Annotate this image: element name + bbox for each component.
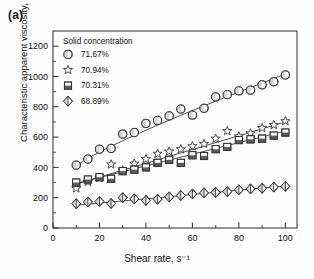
data-point xyxy=(258,183,267,193)
x-tick-label: 20 xyxy=(94,233,104,243)
data-point xyxy=(246,86,254,94)
data-point xyxy=(223,91,231,99)
data-point xyxy=(270,132,277,139)
chart-plot-area xyxy=(72,71,290,209)
data-point xyxy=(165,147,174,155)
data-point xyxy=(235,185,244,195)
data-point xyxy=(212,146,219,153)
data-point xyxy=(131,166,138,173)
chart-series xyxy=(72,117,290,193)
data-point xyxy=(72,199,81,209)
data-point xyxy=(108,175,115,182)
data-point xyxy=(166,156,173,163)
chart-axes: 020406080100020040060080010001200 xyxy=(28,31,297,243)
data-point xyxy=(212,93,220,101)
data-point xyxy=(165,112,173,120)
y-tick-label: 800 xyxy=(33,102,48,112)
chart-series xyxy=(72,181,290,208)
y-tick-label: 200 xyxy=(33,193,48,203)
data-point xyxy=(119,168,126,175)
data-point xyxy=(72,161,80,169)
data-point xyxy=(130,128,138,136)
legend-label: 68.89% xyxy=(81,97,109,106)
data-point xyxy=(200,152,207,159)
data-point xyxy=(200,188,209,198)
x-tick-label: 0 xyxy=(50,233,55,243)
data-point xyxy=(247,136,254,143)
data-point xyxy=(154,159,161,166)
x-tick-label: 100 xyxy=(278,233,293,243)
data-point xyxy=(177,105,185,113)
data-point xyxy=(83,197,92,207)
data-point xyxy=(96,174,103,181)
data-point xyxy=(119,130,127,138)
data-point xyxy=(270,78,278,86)
chart-series xyxy=(73,129,289,186)
data-point xyxy=(153,194,162,204)
data-point xyxy=(107,198,116,208)
y-tick-label: 1200 xyxy=(28,41,48,51)
data-point xyxy=(235,87,243,95)
data-point xyxy=(258,81,266,89)
y-tick-label: 400 xyxy=(33,163,48,173)
data-point xyxy=(176,190,185,200)
chart-legend: Solid concentration71.67%70.94%70.31%68.… xyxy=(63,37,133,106)
data-point xyxy=(107,144,115,152)
data-point xyxy=(84,155,92,163)
data-point xyxy=(281,71,289,79)
data-point xyxy=(223,187,232,197)
legend-marker xyxy=(64,96,73,106)
y-tick-label: 0 xyxy=(43,223,48,233)
figure-panel: (a) Characteristic apparent viscosity, m… xyxy=(0,0,314,279)
data-point xyxy=(188,111,196,119)
y-tick-label: 1000 xyxy=(28,72,48,82)
x-tick-label: 80 xyxy=(234,233,244,243)
data-point xyxy=(95,145,103,153)
legend-label: 70.94% xyxy=(81,66,109,75)
data-point xyxy=(259,135,266,142)
legend-marker xyxy=(63,65,72,73)
data-point xyxy=(224,143,231,150)
data-point xyxy=(189,152,196,159)
data-point xyxy=(177,159,184,166)
legend-marker xyxy=(64,50,72,58)
data-point xyxy=(130,194,139,204)
data-point xyxy=(258,123,267,131)
data-point xyxy=(95,196,104,206)
data-point xyxy=(142,119,150,127)
data-point xyxy=(153,149,162,157)
data-point xyxy=(281,117,290,125)
legend-marker xyxy=(64,82,71,89)
data-point xyxy=(141,154,150,162)
data-point xyxy=(84,176,91,183)
x-tick-label: 60 xyxy=(187,233,197,243)
data-point xyxy=(73,179,80,186)
data-point xyxy=(153,116,161,124)
data-point xyxy=(281,181,290,191)
data-point xyxy=(235,137,242,144)
legend-title: Solid concentration xyxy=(63,37,133,46)
data-point xyxy=(211,134,220,142)
data-point xyxy=(165,192,174,202)
x-tick-label: 40 xyxy=(141,233,151,243)
legend-label: 70.31% xyxy=(81,81,109,90)
y-tick-label: 600 xyxy=(33,132,48,142)
data-point xyxy=(142,195,151,205)
data-point xyxy=(188,189,197,199)
data-point xyxy=(200,104,208,112)
data-point xyxy=(282,129,289,136)
chart-canvas: 020406080100020040060080010001200 Solid … xyxy=(0,0,314,279)
data-point xyxy=(269,120,278,128)
data-point xyxy=(211,187,220,197)
legend-label: 71.67% xyxy=(81,50,109,59)
data-point xyxy=(142,164,149,171)
data-point xyxy=(269,182,278,192)
data-point xyxy=(246,184,255,194)
data-point xyxy=(223,126,232,134)
data-point xyxy=(107,160,116,168)
